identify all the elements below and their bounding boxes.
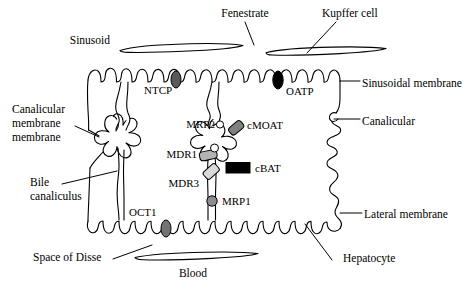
label-transporter-mdr3: MDR3 [168,177,199,189]
transporter-marker-mrp1[interactable] [207,196,217,206]
endothelial-cell-right [266,47,386,55]
label-transporter-ntcp: NTCP [144,84,172,96]
figure-canvas: Sinusoid Fenestrate Kupffer cell Sinusoi… [0,0,476,290]
label-hepatocyte: Hepatocyte [343,252,395,265]
label-sinusoid: Sinusoid [70,34,111,46]
label-bile-1: Bile [30,176,49,188]
label-transporter-oct1: OCT1 [129,206,157,218]
label-space-of-disse: Space of Disse [33,251,101,264]
label-bile-2: canaliculus [30,190,82,202]
hepatocyte-transporter-diagram: Sinusoid Fenestrate Kupffer cell Sinusoi… [0,0,476,290]
blood-vessel-group [135,252,258,260]
lateral-membrane-line [88,221,340,234]
left-cell-edge [87,80,88,130]
label-transporter-cbat: cBAT [255,162,281,174]
bile-canaliculus-left-connector2 [90,152,103,168]
bile-canaliculus-left-neck2 [124,150,125,220]
bile-canaliculus-left-neck [117,148,119,220]
label-transporter-cmoat: cMOAT [247,119,283,131]
label-blood: Blood [179,267,207,279]
label-fenestrate: Fenestrate [221,7,268,19]
label-transporter-mdr1: MDR1 [166,148,197,160]
label-canalicular-membrane-2: membrane [12,117,61,129]
label-lateral-membrane: Lateral membrane [364,208,448,220]
transporter-marker-oatp[interactable] [273,71,283,89]
transporter-marker-mrp2[interactable] [216,121,223,128]
label-kupffer-cell: Kupffer cell [322,7,378,20]
bile-canaliculus-center-neck-left [208,156,209,220]
transporter-marker-ntcp[interactable] [171,71,181,88]
blood-sliver [135,252,258,260]
endothelial-cell-left [120,44,243,53]
lateral-divider-mid-line-upper2 [218,82,221,126]
bile-canaliculus-left [89,114,141,220]
transporter-marker-mdr3[interactable] [202,163,220,181]
left-cell-edge-lower [88,168,90,221]
sinusoid-endothelium-group [120,44,386,56]
leader-canalicular-membrane [75,126,99,137]
transporter-marker-mdr1-circle[interactable] [211,144,219,152]
label-transporter-mrp2: MRP2 [186,118,215,130]
label-sinusoidal-membrane: Sinusoidal membrane [362,77,462,89]
sinusoidal-membrane-line [88,68,340,82]
label-transporter-mrp1: MRP1 [222,195,251,207]
transporter-marker-oct1[interactable] [161,220,171,237]
lateral-divider-left-line2 [126,82,130,130]
label-canalicular: Canalicular [362,115,415,127]
leader-fenestrate [245,22,254,45]
label-canalicular-membrane-1: Canalicular [12,103,65,115]
transporter-marker-cbat[interactable] [226,163,250,174]
label-canalicular-membrane-3: membrane [12,131,61,143]
label-transporter-oatp: OATP [286,85,314,97]
transporter-marker-cmoat[interactable] [227,119,245,136]
right-lateral-membrane-line [327,81,341,229]
